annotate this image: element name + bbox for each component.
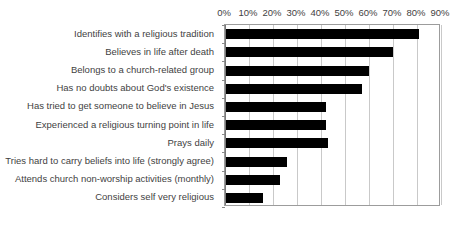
bar: [226, 47, 393, 57]
bar: [226, 120, 326, 130]
y-axis-category-label: Attends church non-worship activities (m…: [0, 173, 214, 184]
y-axis-category-label: Has tried to get someone to believe in J…: [0, 100, 214, 111]
x-axis-tick-label: 90%: [420, 7, 454, 19]
bar: [226, 66, 369, 76]
y-axis-category-label: Considers self very religious: [0, 191, 214, 202]
bar: [226, 193, 263, 203]
bar: [226, 102, 326, 112]
y-axis-category-label: Tries hard to carry beliefs into life (s…: [0, 155, 214, 166]
y-axis-category-labels: Identifies with a religious traditionBel…: [0, 24, 219, 206]
y-axis-category-label: Identifies with a religious tradition: [0, 28, 214, 39]
y-axis-category-label: Experienced a religious turning point in…: [0, 119, 214, 130]
plot-area: [224, 24, 440, 206]
y-axis-category-label: Has no doubts about God's existence: [0, 82, 214, 93]
bar: [226, 84, 362, 94]
bars: [225, 25, 439, 205]
bar: [226, 138, 328, 148]
y-axis-category-label: Belongs to a church-related group: [0, 64, 214, 75]
bar: [226, 29, 419, 39]
bar: [226, 175, 280, 185]
y-axis-tickmark: [222, 207, 225, 208]
y-axis-category-label: Prays daily: [0, 137, 214, 148]
gridline: [441, 25, 442, 205]
y-axis-category-label: Believes in life after death: [0, 46, 214, 57]
bar: [226, 157, 287, 167]
x-axis-tick-labels: 0%10%20%30%40%50%60%70%80%90%: [224, 7, 440, 20]
